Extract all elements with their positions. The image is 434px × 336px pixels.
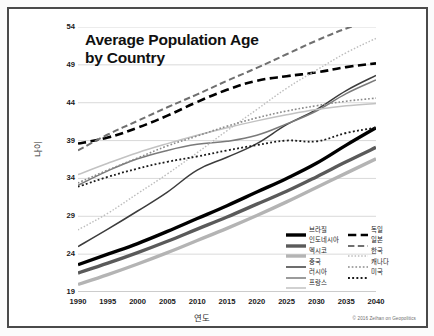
x-axis-tick-labels: 1990199520002005201020152020202520302035… — [78, 297, 376, 309]
legend-item[interactable]: 멕시코 — [286, 245, 344, 256]
legend: 브라질인도네시아멕시코중국러시아프랑스 독일일본한국캐나다미국 — [286, 224, 408, 288]
legend-item[interactable]: 프랑스 — [286, 277, 344, 288]
legend-swatch — [286, 257, 306, 265]
legend-column-left: 브라질인도네시아멕시코중국러시아프랑스 — [286, 224, 344, 288]
chart-figure: Average Population Age by Country 544944… — [0, 0, 434, 336]
chart-title: Average Population Age by Country — [85, 31, 295, 66]
legend-item[interactable]: 독일 — [348, 224, 406, 235]
legend-label: 인도네시아 — [309, 235, 339, 244]
x-tick-label: 2040 — [359, 297, 393, 306]
legend-label: 독일 — [371, 225, 383, 234]
legend-item[interactable]: 미국 — [348, 266, 406, 277]
legend-item[interactable]: 러시아 — [286, 266, 344, 277]
legend-swatch — [286, 225, 306, 233]
legend-item[interactable]: 인도네시아 — [286, 235, 344, 246]
legend-swatch — [286, 236, 306, 244]
y-tick-label: 34 — [53, 173, 75, 182]
legend-swatch — [286, 268, 306, 276]
legend-swatch — [348, 257, 368, 265]
legend-label: 멕시코 — [309, 246, 327, 255]
legend-swatch — [286, 278, 306, 286]
y-tick-label: 24 — [53, 249, 75, 258]
copyright-credit: © 2016 Zeihan on Geopolitics — [353, 316, 416, 321]
y-tick-label: 29 — [53, 211, 75, 220]
legend-swatch — [348, 236, 368, 244]
legend-label: 브라질 — [309, 225, 327, 234]
legend-swatch — [348, 246, 368, 254]
y-tick-label: 19 — [53, 287, 75, 296]
legend-swatch — [348, 268, 368, 276]
y-axis-tick-labels: 5449443934292419 — [49, 9, 75, 326]
legend-column-right: 독일일본한국캐나다미국 — [348, 224, 406, 288]
y-tick-label: 49 — [53, 60, 75, 69]
series-line-china — [78, 75, 376, 246]
legend-label: 러시아 — [309, 267, 327, 276]
legend-item[interactable]: 브라질 — [286, 224, 344, 235]
legend-swatch — [286, 246, 306, 254]
legend-swatch — [348, 225, 368, 233]
chart-frame: Average Population Age by Country 544944… — [7, 7, 428, 328]
legend-label: 한국 — [371, 246, 383, 255]
legend-label: 미국 — [371, 267, 383, 276]
chart-title-line1: Average Population Age — [85, 31, 295, 49]
legend-label: 캐나다 — [371, 257, 389, 266]
chart-title-line2: by Country — [85, 49, 295, 67]
legend-item[interactable]: 캐나다 — [348, 256, 406, 267]
y-axis-title: 나이 — [31, 141, 43, 157]
legend-label: 중국 — [309, 257, 321, 266]
legend-item[interactable]: 한국 — [348, 245, 406, 256]
legend-item[interactable]: 일본 — [348, 235, 406, 246]
legend-label: 일본 — [371, 235, 383, 244]
y-tick-label: 54 — [53, 22, 75, 31]
y-tick-label: 44 — [53, 98, 75, 107]
y-tick-label: 39 — [53, 136, 75, 145]
legend-label: 프랑스 — [309, 278, 327, 287]
legend-item[interactable]: 중국 — [286, 256, 344, 267]
